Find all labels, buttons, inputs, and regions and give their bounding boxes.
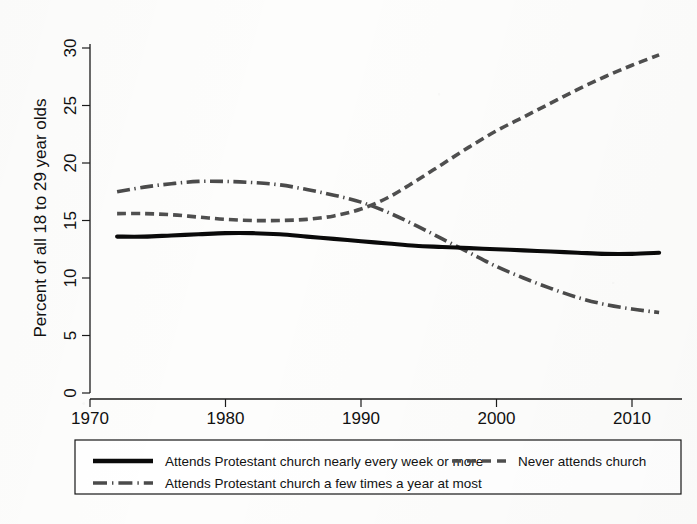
legend-label-never-attends: Never attends church [518,454,646,469]
y-tick-label-15: 15 [61,211,80,230]
y-tick-label-25: 25 [61,96,80,115]
line-chart: 0 5 10 15 20 25 30 Percent of all 18 to … [0,0,697,524]
legend-label-attends-few-times: Attends Protestant church a few times a … [165,476,482,491]
x-tick-label-1980: 1980 [207,409,245,428]
y-tick-label-5: 5 [61,331,80,340]
series-group [117,55,659,313]
x-tick-label-1970: 1970 [71,409,109,428]
x-axis: 1970 1980 1990 2000 2010 [71,399,682,428]
series-line-attends-few-times [117,181,659,312]
series-line-never-attends [117,55,659,221]
series-line-attends-weekly [117,233,659,254]
y-axis-title: Percent of all 18 to 29 year olds [31,98,50,337]
chart-legend: Attends Protestant church nearly every w… [75,440,681,494]
y-tick-label-20: 20 [61,154,80,173]
y-tick-label-10: 10 [61,269,80,288]
x-tick-label-1990: 1990 [342,409,380,428]
x-tick-label-2000: 2000 [478,409,516,428]
y-tick-label-0: 0 [61,388,80,397]
chart-figure: 0 5 10 15 20 25 30 Percent of all 18 to … [0,0,697,524]
y-axis: 0 5 10 15 20 25 30 Percent of all 18 to … [31,39,91,398]
y-tick-label-30: 30 [61,39,80,58]
x-tick-label-2010: 2010 [613,409,651,428]
legend-label-attends-weekly: Attends Protestant church nearly every w… [165,454,483,469]
